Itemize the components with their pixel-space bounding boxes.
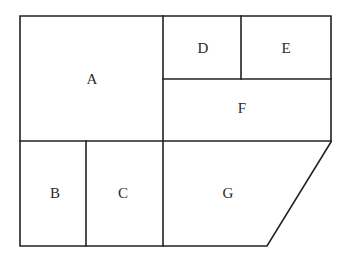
partition-diagram: A B C D E F G <box>0 0 347 264</box>
region-label-c: C <box>118 185 128 201</box>
region-label-a: A <box>87 71 98 87</box>
region-label-b: B <box>50 185 60 201</box>
region-label-g: G <box>223 185 234 201</box>
region-label-f: F <box>238 100 246 116</box>
region-label-d: D <box>198 40 209 56</box>
region-label-e: E <box>281 40 290 56</box>
